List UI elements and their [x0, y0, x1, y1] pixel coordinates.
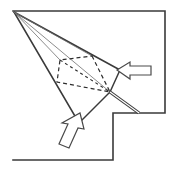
line-diagram-canvas: right load arrowbottom load arrow [0, 0, 175, 171]
figure-container: Perspective projection line diagram Tech… [0, 0, 175, 171]
diagram-background [0, 0, 175, 171]
